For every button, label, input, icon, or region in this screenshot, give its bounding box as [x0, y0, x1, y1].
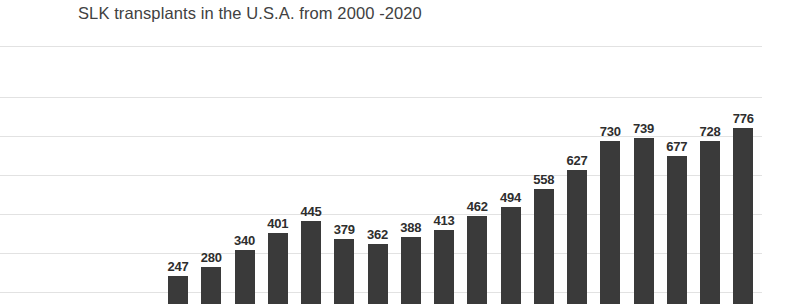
bar-value-label: 401 — [267, 216, 288, 231]
bar-value-label: 739 — [633, 121, 654, 136]
bar-group: 445 — [301, 0, 321, 304]
bar-value-label: 280 — [201, 250, 222, 265]
bar[interactable] — [567, 170, 587, 304]
bar-value-label: 445 — [300, 204, 321, 219]
bar-group: 340 — [235, 0, 255, 304]
bar-value-label: 728 — [699, 124, 720, 139]
chart-screenshot: SLK transplants in the U.S.A. from 2000 … — [0, 0, 800, 304]
bar[interactable] — [600, 141, 620, 304]
bars-layer: 2472803404014453793623884134624945586277… — [0, 0, 800, 304]
bar[interactable] — [501, 207, 521, 304]
bar-group: 247 — [168, 0, 188, 304]
bar-value-label: 340 — [234, 233, 255, 248]
bar[interactable] — [235, 250, 255, 304]
bar-value-label: 362 — [367, 227, 388, 242]
bar-group: 413 — [434, 0, 454, 304]
bar-group: 388 — [401, 0, 421, 304]
bar[interactable] — [733, 128, 753, 304]
bar-group: 776 — [733, 0, 753, 304]
bar-group: 677 — [667, 0, 687, 304]
bar-group: 728 — [700, 0, 720, 304]
bar[interactable] — [467, 216, 487, 304]
bar-value-label: 677 — [666, 139, 687, 154]
bar-value-label: 730 — [600, 124, 621, 139]
bar-value-label: 462 — [467, 199, 488, 214]
bar-group: 558 — [534, 0, 554, 304]
bar[interactable] — [368, 244, 388, 304]
bar-value-label: 494 — [500, 190, 521, 205]
bar-group: 379 — [334, 0, 354, 304]
bar-value-label: 379 — [334, 222, 355, 237]
bar[interactable] — [301, 221, 321, 304]
bar[interactable] — [268, 233, 288, 304]
bar-value-label: 413 — [433, 213, 454, 228]
bar-group: 730 — [600, 0, 620, 304]
bar-group: 401 — [268, 0, 288, 304]
bar-group: 739 — [634, 0, 654, 304]
bar-value-label: 627 — [566, 153, 587, 168]
bar-value-label: 388 — [400, 220, 421, 235]
bar[interactable] — [700, 141, 720, 304]
bar-group: 627 — [567, 0, 587, 304]
bar-group: 494 — [501, 0, 521, 304]
bar[interactable] — [334, 239, 354, 304]
bar-group: 462 — [467, 0, 487, 304]
bar[interactable] — [201, 267, 221, 304]
bar[interactable] — [667, 156, 687, 304]
bar-value-label: 776 — [733, 111, 754, 126]
bar[interactable] — [434, 230, 454, 304]
bar[interactable] — [634, 138, 654, 304]
bar[interactable] — [168, 276, 188, 304]
bar-value-label: 247 — [167, 259, 188, 274]
bar-group: 362 — [368, 0, 388, 304]
bar[interactable] — [401, 237, 421, 304]
bar-value-label: 558 — [533, 172, 554, 187]
bar[interactable] — [534, 189, 554, 304]
bar-group: 280 — [201, 0, 221, 304]
